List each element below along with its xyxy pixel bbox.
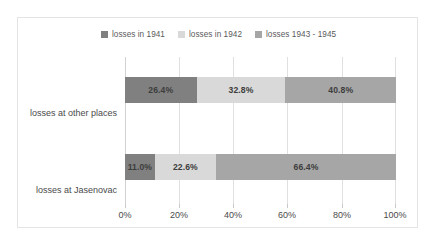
bar-segment-value: 40.8% bbox=[328, 85, 353, 95]
x-tick-label-100: 100% bbox=[375, 210, 415, 220]
legend-item-label: losses 1943 - 1945 bbox=[266, 30, 336, 39]
x-tick-mark bbox=[179, 204, 180, 208]
x-axis: 0% 20% 40% 60% 80% 100% bbox=[125, 204, 396, 226]
square-swatch-icon bbox=[101, 31, 108, 38]
bar-row: 11.0% 22.6% 66.4% bbox=[125, 154, 396, 180]
x-tick-mark bbox=[287, 204, 288, 208]
bar-segment-1941[interactable]: 26.4% bbox=[125, 77, 197, 103]
bar-segment-value: 22.6% bbox=[173, 162, 198, 172]
bar-segment-value: 11.0% bbox=[128, 162, 152, 172]
bar-segment-value: 66.4% bbox=[294, 162, 319, 172]
square-swatch-icon bbox=[255, 31, 262, 38]
legend-item-label: losses in 1942 bbox=[189, 30, 242, 39]
legend-item-losses-1942[interactable]: losses in 1942 bbox=[178, 30, 242, 39]
square-swatch-icon bbox=[178, 31, 185, 38]
chart-legend: losses in 1941 losses in 1942 losses 194… bbox=[18, 30, 419, 39]
x-tick-mark bbox=[342, 204, 343, 208]
category-label-other-places: losses at other places bbox=[0, 108, 117, 118]
bar-segment-1943-1945[interactable]: 66.4% bbox=[216, 154, 396, 180]
bar-segment-1943-1945[interactable]: 40.8% bbox=[285, 77, 396, 103]
x-tick-mark bbox=[233, 204, 234, 208]
bar-segment-value: 26.4% bbox=[148, 85, 173, 95]
x-tick-label-60: 60% bbox=[267, 210, 307, 220]
bar-row: 26.4% 32.8% 40.8% bbox=[125, 77, 396, 103]
x-tick-mark bbox=[395, 204, 396, 208]
bar-segment-value: 32.8% bbox=[229, 85, 254, 95]
x-tick-label-40: 40% bbox=[213, 210, 253, 220]
legend-item-losses-1943-1945[interactable]: losses 1943 - 1945 bbox=[255, 30, 336, 39]
legend-item-label: losses in 1941 bbox=[112, 30, 165, 39]
legend-item-losses-1941[interactable]: losses in 1941 bbox=[101, 30, 165, 39]
chart-container: losses in 1941 losses in 1942 losses 194… bbox=[17, 17, 418, 228]
bar-segment-1941[interactable]: 11.0% bbox=[125, 154, 155, 180]
bar-segment-1942[interactable]: 32.8% bbox=[197, 77, 286, 103]
x-tick-label-20: 20% bbox=[159, 210, 199, 220]
plot-area: 26.4% 32.8% 40.8% 11.0% 22.6% 66.4% bbox=[125, 57, 396, 204]
x-tick-label-80: 80% bbox=[322, 210, 362, 220]
bar-segment-1942[interactable]: 22.6% bbox=[155, 154, 216, 180]
x-tick-mark bbox=[125, 204, 126, 208]
category-label-jasenovac: losses at Jasenovac bbox=[0, 185, 117, 195]
x-tick-label-0: 0% bbox=[105, 210, 145, 220]
